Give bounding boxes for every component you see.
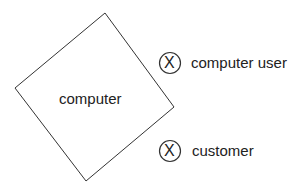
computer-user-label: computer user: [191, 55, 287, 70]
diagram-canvas: [0, 0, 304, 196]
symbol-x: X: [164, 143, 175, 159]
customer-label: customer: [192, 143, 254, 158]
computer-label: computer: [59, 91, 122, 106]
symbol-x: X: [164, 55, 175, 71]
